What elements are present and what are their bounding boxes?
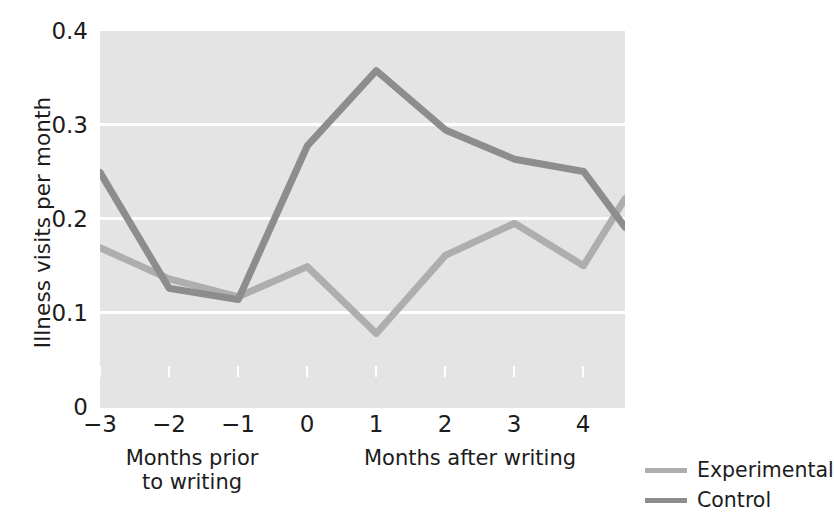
x-tickmark-3 (513, 366, 515, 377)
caption-months-prior-line1: Months prior (92, 447, 292, 471)
legend-label-experimental: Experimental (697, 458, 834, 482)
x-tick--1: −1 (208, 413, 268, 436)
chart-legend: Experimental Control (645, 455, 823, 515)
legend-swatch-experimental (645, 468, 687, 473)
line-control (100, 71, 625, 300)
legend-item-experimental[interactable]: Experimental (645, 455, 823, 485)
legend-swatch-control (645, 498, 687, 503)
plot-area (100, 31, 625, 408)
caption-months-after: Months after writing (330, 447, 610, 471)
x-tick--2: −2 (139, 413, 199, 436)
y-tick-0.1: 0.1 (26, 302, 88, 325)
x-tickmark--3 (99, 366, 101, 377)
line-experimental (100, 199, 625, 334)
x-tickmark-0 (306, 366, 308, 377)
x-tick-1: 1 (346, 413, 406, 436)
x-tickmark--1 (237, 366, 239, 377)
legend-label-control: Control (697, 488, 771, 512)
y-tick-0.2: 0.2 (26, 208, 88, 231)
x-tickmark--2 (168, 366, 170, 377)
x-tick--3: −3 (70, 413, 130, 436)
x-tickmark-4 (582, 366, 584, 377)
x-axis-tick-labels: −3 −2 −1 0 1 2 3 4 (0, 413, 823, 443)
y-tick-0.3: 0.3 (26, 114, 88, 137)
x-tick-0: 0 (277, 413, 337, 436)
caption-months-prior-line2: to writing (92, 471, 292, 495)
data-series-container (100, 31, 625, 408)
x-tick-2: 2 (415, 413, 475, 436)
x-tick-3: 3 (484, 413, 544, 436)
y-tick-0.4: 0.4 (26, 20, 88, 43)
legend-item-control[interactable]: Control (645, 485, 823, 515)
x-tickmark-1 (375, 366, 377, 377)
x-tick-4: 4 (553, 413, 613, 436)
x-tickmark-2 (444, 366, 446, 377)
caption-months-prior: Months prior to writing (92, 447, 292, 494)
